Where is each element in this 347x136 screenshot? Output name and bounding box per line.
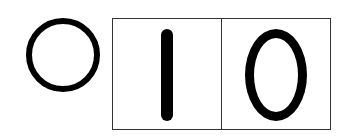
digit-cell-one: [113, 19, 221, 129]
digit-cell-zero: [221, 19, 330, 129]
digit-one-glyph: [161, 29, 173, 121]
circle-symbol: [26, 18, 100, 92]
digit-zero-glyph: [245, 29, 307, 121]
digit-box: [112, 18, 331, 130]
